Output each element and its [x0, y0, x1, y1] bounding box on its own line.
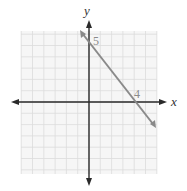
coordinate-plane: x y 5 4: [0, 0, 187, 191]
x-axis-label: x: [170, 94, 177, 109]
y-axis-up-arrow-icon: [86, 20, 92, 28]
x-axis-left-arrow-icon: [11, 99, 19, 105]
y-axis-down-arrow-icon: [86, 178, 92, 186]
x-intercept-label: 4: [134, 87, 140, 101]
y-axis-label: y: [82, 3, 90, 18]
y-intercept-label: 5: [93, 34, 99, 48]
x-axis-right-arrow-icon: [159, 99, 167, 105]
